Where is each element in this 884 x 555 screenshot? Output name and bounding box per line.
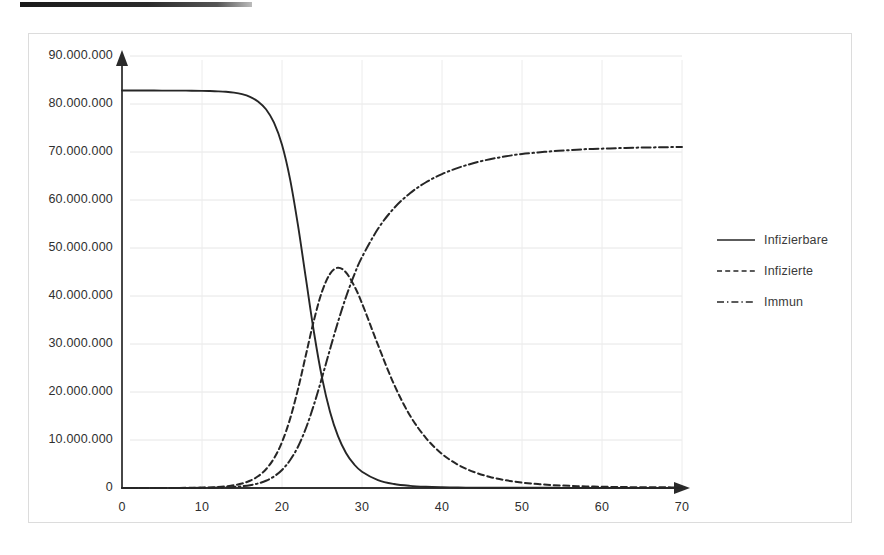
legend-item-infizierbare: Infizierbare xyxy=(716,233,828,247)
series-line-infizierbare xyxy=(122,91,682,488)
legend-item-infizierte: Infizierte xyxy=(716,264,828,278)
series-line-infizierte xyxy=(122,268,682,488)
dashdot-line-key xyxy=(716,297,756,307)
y-axis-tick-label: 40.000.000 xyxy=(48,288,113,302)
y-axis-tick-label: 50.000.000 xyxy=(48,240,113,254)
y-axis-tick-label: 70.000.000 xyxy=(48,144,113,158)
x-axis-tick-label: 20 xyxy=(257,500,307,514)
series-line-immun xyxy=(122,147,682,488)
dashed-line-key xyxy=(716,266,756,276)
chart-legend: Infizierbare Infizierte Immun xyxy=(716,233,828,309)
legend-label-immun: Immun xyxy=(764,295,803,309)
legend-label-infizierbare: Infizierbare xyxy=(764,233,828,247)
y-axis-tick-label: 30.000.000 xyxy=(48,336,113,350)
y-axis-tick-label: 80.000.000 xyxy=(48,96,113,110)
x-axis-tick-label: 50 xyxy=(497,500,547,514)
y-axis-arrow xyxy=(116,50,128,66)
x-axis-tick-label: 70 xyxy=(657,500,707,514)
x-axis-tick-label: 10 xyxy=(177,500,227,514)
solid-line-key xyxy=(716,235,756,245)
y-axis-tick-label: 0 xyxy=(106,480,113,494)
y-axis-tick-label: 10.000.000 xyxy=(48,432,113,446)
y-axis-tick-label: 60.000.000 xyxy=(48,192,113,206)
x-axis-tick-label: 0 xyxy=(97,500,147,514)
y-axis-tick-label: 20.000.000 xyxy=(48,384,113,398)
legend-item-immun: Immun xyxy=(716,295,828,309)
x-axis-tick-label: 30 xyxy=(337,500,387,514)
x-axis-tick-label: 60 xyxy=(577,500,627,514)
legend-label-infizierte: Infizierte xyxy=(764,264,813,278)
y-axis-tick-label: 90.000.000 xyxy=(48,48,113,62)
x-axis-tick-label: 40 xyxy=(417,500,467,514)
